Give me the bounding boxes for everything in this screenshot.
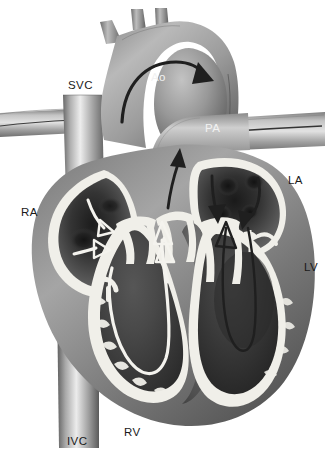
- heart-illustration: [0, 0, 325, 458]
- pulmonary-vein-ostium: [217, 176, 239, 196]
- svc-ostium: [98, 197, 122, 215]
- pulmonary-vein-ostium: [244, 173, 264, 191]
- heart-anatomy-figure: SVC Ao PA LA RA LV RV IVC: [0, 0, 325, 458]
